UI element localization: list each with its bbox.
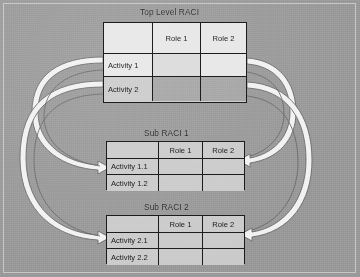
top-header-role-1: Role 1: [153, 23, 201, 53]
table-row[interactable]: Activity 1.1: [107, 159, 244, 175]
table-row[interactable]: Activity 2.2: [107, 249, 244, 265]
top-cell-activity-2-role-1[interactable]: [153, 77, 201, 101]
sub1-row-label-activity-1-2: Activity 1.2: [107, 175, 159, 191]
sub2-cell-activity-2-1-role-1[interactable]: [159, 233, 202, 248]
raci-diagram-canvas: Top Level RACI Role 1 Role 2 Activity 1 …: [0, 0, 360, 277]
top-table-header-row: Role 1 Role 2: [104, 23, 246, 54]
sub2-cell-activity-2-1-role-2[interactable]: [203, 233, 244, 248]
sub1-cell-activity-1-1-role-1[interactable]: [159, 159, 202, 174]
sub2-header-row: Role 1 Role 2: [107, 216, 244, 233]
table-row[interactable]: Activity 2: [104, 77, 246, 101]
sub2-row-label-activity-2-2: Activity 2.2: [107, 249, 159, 265]
sub-raci-1-table[interactable]: Role 1 Role 2 Activity 1.1 Activity 1.2: [106, 141, 245, 190]
sub1-cell-activity-1-2-role-2[interactable]: [203, 175, 244, 191]
top-cell-activity-1-role-1[interactable]: [153, 54, 201, 76]
top-header-role-2: Role 2: [201, 23, 246, 53]
sub1-header-row: Role 1 Role 2: [107, 142, 244, 159]
sub-raci-1-title: Sub RACI 1: [144, 128, 189, 138]
sub2-cell-activity-2-2-role-2[interactable]: [203, 249, 244, 265]
top-cell-activity-1-role-2[interactable]: [201, 54, 246, 76]
top-row-label-activity-2: Activity 2: [104, 77, 153, 101]
sub2-cell-activity-2-2-role-1[interactable]: [159, 249, 202, 265]
sub1-cell-activity-1-2-role-1[interactable]: [159, 175, 202, 191]
sub1-cell-activity-1-1-role-2[interactable]: [203, 159, 244, 174]
top-row-label-activity-1: Activity 1: [104, 54, 153, 76]
table-row[interactable]: Activity 1: [104, 54, 246, 77]
sub2-row-label-activity-2-1: Activity 2.1: [107, 233, 159, 248]
table-row[interactable]: Activity 1.2: [107, 175, 244, 191]
sub2-header-role-2: Role 2: [203, 216, 244, 232]
sub-raci-2-table[interactable]: Role 1 Role 2 Activity 2.1 Activity 2.2: [106, 215, 245, 264]
top-cell-activity-2-role-2[interactable]: [201, 77, 246, 101]
sub2-header-role-1: Role 1: [159, 216, 202, 232]
sub1-row-label-activity-1-1: Activity 1.1: [107, 159, 159, 174]
sub-raci-2-title: Sub RACI 2: [144, 202, 189, 212]
sub1-header-corner-cell: [107, 142, 159, 158]
top-table-title: Top Level RACI: [140, 7, 199, 17]
top-level-raci-table[interactable]: Role 1 Role 2 Activity 1 Activity 2: [103, 22, 247, 103]
sub1-header-role-1: Role 1: [159, 142, 202, 158]
sub1-header-role-2: Role 2: [203, 142, 244, 158]
sub2-header-corner-cell: [107, 216, 159, 232]
table-row[interactable]: Activity 2.1: [107, 233, 244, 249]
top-header-corner-cell: [104, 23, 153, 53]
